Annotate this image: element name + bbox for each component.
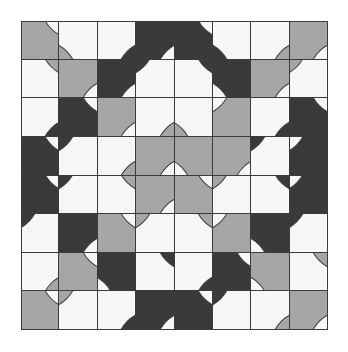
tile-r2-c3 <box>136 98 174 137</box>
tile-r0-c2 <box>98 21 136 60</box>
quarter-circle-icon <box>40 176 60 195</box>
tile-r6-c2 <box>98 253 136 292</box>
tile-r6-c6 <box>251 253 289 292</box>
quarter-circle-icon <box>193 21 213 40</box>
tile-r2-c5 <box>213 98 251 137</box>
tile-r4-c5 <box>213 176 251 215</box>
tile-r7-c2 <box>98 291 136 330</box>
tile-r5-c5 <box>213 214 251 253</box>
truchet-tile-grid <box>21 21 328 330</box>
quarter-circle-icon <box>213 98 232 117</box>
tile-r3-c6 <box>251 137 289 176</box>
quarter-circle-icon <box>40 291 60 310</box>
quarter-circle-icon <box>213 214 232 233</box>
tile-r7-c6 <box>251 291 289 330</box>
tile-r2-c4 <box>175 98 213 137</box>
quarter-circle-icon <box>290 137 309 156</box>
tile-r0-c6 <box>251 21 289 60</box>
tile-r2-c6 <box>251 98 289 137</box>
quarter-circle-icon <box>270 310 290 330</box>
quarter-circle-icon <box>308 253 328 272</box>
quarter-circle-icon <box>78 233 98 253</box>
quarter-circle-icon <box>40 21 60 40</box>
quarter-circle-icon <box>193 272 213 292</box>
tile-r7-c7 <box>290 291 328 330</box>
quarter-circle-icon <box>308 40 328 60</box>
tile-r1-c2 <box>98 60 136 99</box>
quarter-circle-icon <box>59 291 78 310</box>
quarter-circle-icon <box>290 214 309 233</box>
quarter-circle-icon <box>175 156 194 176</box>
quarter-circle-icon <box>290 60 309 79</box>
tile-r4-c1 <box>59 176 97 215</box>
tile-r4-c6 <box>251 176 289 215</box>
quarter-circle-icon <box>308 98 328 117</box>
tile-r4-c4 <box>175 176 213 215</box>
quarter-circle-icon <box>175 117 194 137</box>
quarter-circle-icon <box>270 117 290 137</box>
quarter-circle-icon <box>59 40 78 60</box>
tile-r6-c7 <box>290 253 328 292</box>
quarter-circle-icon <box>116 176 136 195</box>
tile-r0-c3 <box>136 21 174 60</box>
quarter-circle-icon <box>213 78 232 98</box>
tile-r1-c5 <box>213 60 251 99</box>
quarter-circle-icon <box>116 310 136 330</box>
tile-r5-c6 <box>251 214 289 253</box>
quarter-circle-icon <box>251 233 270 253</box>
quarter-circle-icon <box>78 253 98 272</box>
tile-r0-c1 <box>59 21 97 60</box>
tile-r6-c1 <box>59 253 97 292</box>
quarter-circle-icon <box>40 272 60 292</box>
quarter-circle-icon <box>116 117 136 137</box>
tile-r4-c3 <box>136 176 174 215</box>
quarter-circle-icon <box>213 40 232 60</box>
artwork-canvas <box>0 0 348 352</box>
quarter-circle-icon <box>251 272 270 292</box>
tile-r6-c0 <box>21 253 59 292</box>
quarter-circle-icon <box>213 176 232 195</box>
tile-r4-c0 <box>21 176 59 215</box>
tile-r6-c3 <box>136 253 174 292</box>
tile-r3-c7 <box>290 137 328 176</box>
quarter-circle-icon <box>232 156 252 176</box>
quarter-circle-icon <box>155 156 175 176</box>
quarter-circle-icon <box>193 214 213 233</box>
tile-r3-c5 <box>213 137 251 176</box>
quarter-circle-icon <box>155 40 175 60</box>
tile-r7-c5 <box>213 291 251 330</box>
quarter-circle-icon <box>40 117 60 137</box>
quarter-circle-icon <box>155 117 175 137</box>
quarter-circle-icon <box>155 310 175 330</box>
quarter-circle-icon <box>116 78 136 98</box>
tile-r4-c2 <box>98 176 136 215</box>
tile-r3-c3 <box>136 137 174 176</box>
tile-r5-c7 <box>290 214 328 253</box>
quarter-circle-icon <box>270 40 290 60</box>
tile-r1-c7 <box>290 60 328 99</box>
tile-r0-c0 <box>21 21 59 60</box>
tile-r5-c4 <box>175 214 213 253</box>
tile-r2-c7 <box>290 98 328 137</box>
tile-r1-c1 <box>59 60 97 99</box>
quarter-circle-icon <box>155 194 175 214</box>
quarter-circle-icon <box>251 137 270 156</box>
tile-r1-c0 <box>21 60 59 99</box>
tile-r2-c2 <box>98 98 136 137</box>
quarter-circle-icon <box>193 60 213 79</box>
quarter-circle-icon <box>59 176 78 195</box>
tile-r3-c1 <box>59 137 97 176</box>
tile-r1-c6 <box>251 60 289 99</box>
quarter-circle-icon <box>40 60 60 79</box>
quarter-circle-icon <box>213 291 232 310</box>
tile-r3-c0 <box>21 137 59 176</box>
quarter-circle-icon <box>116 40 136 60</box>
tile-r0-c7 <box>290 21 328 60</box>
tile-r3-c2 <box>98 137 136 176</box>
tile-r4-c7 <box>290 176 328 215</box>
quarter-circle-icon <box>98 272 117 292</box>
quarter-circle-icon <box>136 60 155 79</box>
tile-r7-c3 <box>136 291 174 330</box>
tile-r5-c3 <box>136 214 174 253</box>
quarter-circle-icon <box>270 176 290 195</box>
